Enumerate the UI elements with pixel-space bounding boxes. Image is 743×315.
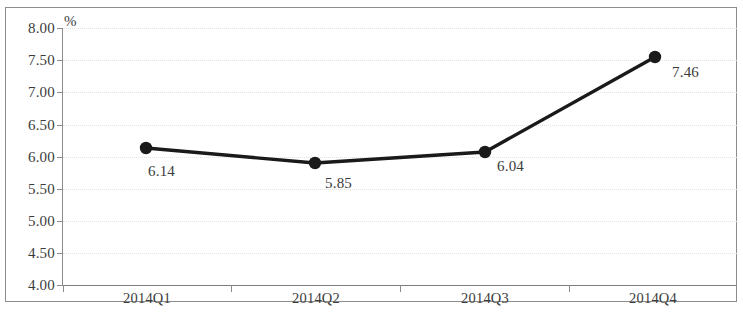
data-point-marker: [140, 142, 152, 154]
data-point-marker: [309, 157, 321, 169]
data-point-marker: [649, 51, 661, 63]
x-tick-label: 2014Q4: [583, 291, 723, 306]
chart-container: 8.00 7.50 7.00 6.50 6.00 5.50 5.00 4.50 …: [0, 0, 743, 315]
data-point-label: 6.14: [148, 164, 175, 179]
x-tick-label: 2014Q2: [246, 291, 386, 306]
series-line: [146, 57, 655, 163]
x-tick-label: 2014Q3: [415, 291, 555, 306]
data-point-label: 7.46: [672, 65, 699, 80]
data-point-label: 6.04: [497, 159, 524, 174]
x-tick-label: 2014Q1: [77, 291, 217, 306]
series-line-chart: [0, 0, 743, 315]
data-point-marker: [479, 146, 491, 158]
data-point-label: 5.85: [325, 176, 352, 191]
